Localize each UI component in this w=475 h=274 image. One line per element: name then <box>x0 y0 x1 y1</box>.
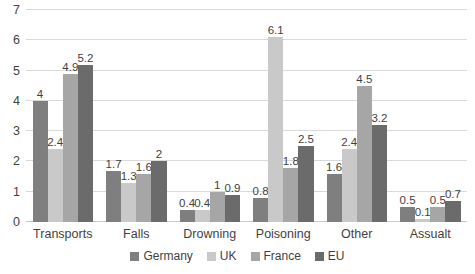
bar-value-label: 0.4 <box>194 197 210 209</box>
bar <box>253 198 268 222</box>
bar <box>342 149 357 222</box>
bar-slot: 0.5 <box>400 10 415 222</box>
bar-value-label: 6.1 <box>268 24 284 36</box>
bar-value-label: 1.6 <box>136 161 152 173</box>
bar-value-label: 0.7 <box>445 188 461 200</box>
bar <box>327 174 342 222</box>
bar <box>33 101 48 222</box>
bar <box>400 207 415 222</box>
bar-value-label: 5.2 <box>77 52 93 64</box>
category-label: Other <box>341 226 372 242</box>
bar-group: 0.40.410.9 <box>173 10 247 222</box>
bar-value-label: 1 <box>214 179 220 191</box>
legend-label: UK <box>220 250 237 263</box>
bar <box>180 210 195 222</box>
bar-slot: 4.9 <box>63 10 78 222</box>
bar-group: 1.71.31.62 <box>100 10 174 222</box>
bar-slot: 1.7 <box>106 10 121 222</box>
bar-value-label: 1.3 <box>121 170 137 182</box>
y-tick-label: 0 <box>13 216 20 228</box>
bar-slot: 2.4 <box>342 10 357 222</box>
legend-swatch-icon <box>207 252 216 261</box>
bar <box>372 125 387 222</box>
bar-slot: 0.4 <box>195 10 210 222</box>
bar-value-label: 0.8 <box>253 185 269 197</box>
legend-item[interactable]: UK <box>207 250 237 263</box>
bar <box>136 174 151 222</box>
y-axis: 01234567 <box>0 0 26 274</box>
bar-slot: 1.6 <box>327 10 342 222</box>
chart-legend: GermanyUKFranceEU <box>0 250 475 263</box>
bar <box>78 65 93 222</box>
y-tick-label: 1 <box>13 186 20 198</box>
bar-slot: 2 <box>151 10 166 222</box>
y-tick-label: 2 <box>13 155 20 167</box>
category-label: Transports <box>33 226 92 242</box>
bar-value-label: 0.5 <box>430 194 446 206</box>
bar-slot: 3.2 <box>372 10 387 222</box>
bar-slot: 1.3 <box>121 10 136 222</box>
bar-value-label: 0.5 <box>400 194 416 206</box>
bar-value-label: 2.4 <box>341 136 357 148</box>
bar-slot: 1.8 <box>283 10 298 222</box>
bar-slot: 0.5 <box>430 10 445 222</box>
bar-slot: 0.8 <box>253 10 268 222</box>
grouped-bar-chart: 01234567 42.44.95.21.71.31.620.40.410.90… <box>0 0 475 274</box>
bar-slot: 0.1 <box>415 10 430 222</box>
bar-value-label: 0.4 <box>179 197 195 209</box>
category-label: Poisoning <box>256 226 311 242</box>
bar <box>445 201 460 222</box>
bar-group: 0.50.10.50.7 <box>394 10 468 222</box>
category-label: Falls <box>123 226 149 242</box>
bar-value-label: 1.7 <box>106 158 122 170</box>
bar-slot: 5.2 <box>78 10 93 222</box>
bar <box>225 195 240 222</box>
bar <box>48 149 63 222</box>
bar <box>151 161 166 222</box>
bar-slot: 4.5 <box>357 10 372 222</box>
y-tick-label: 6 <box>13 34 20 46</box>
bar <box>357 86 372 222</box>
bar <box>121 183 136 222</box>
bar <box>210 192 225 222</box>
legend-item[interactable]: Germany <box>130 250 192 263</box>
bar <box>430 207 445 222</box>
plot-area: 42.44.95.21.71.31.620.40.410.90.86.11.82… <box>26 10 467 222</box>
legend-item[interactable]: France <box>251 250 301 263</box>
bar-slot: 1 <box>210 10 225 222</box>
bar-value-label: 1.8 <box>283 155 299 167</box>
x-axis-category-labels: TransportsFallsDrowningPoisoningOtherAss… <box>26 226 467 246</box>
bar-group: 42.44.95.2 <box>26 10 100 222</box>
bar-group: 1.62.44.53.2 <box>320 10 394 222</box>
bar <box>63 74 78 222</box>
bar <box>195 210 210 222</box>
y-tick-label: 3 <box>13 125 20 137</box>
bar <box>415 219 430 222</box>
legend-item[interactable]: EU <box>315 250 345 263</box>
legend-label: France <box>264 250 301 263</box>
bar-slot: 4 <box>33 10 48 222</box>
y-tick-label: 4 <box>13 95 20 107</box>
bar <box>298 146 313 222</box>
legend-label: Germany <box>143 250 192 263</box>
category-label: Drowning <box>183 226 236 242</box>
bar-value-label: 2.5 <box>298 133 314 145</box>
bar-value-label: 2.4 <box>47 136 63 148</box>
category-label: Assualt <box>410 226 451 242</box>
bar-value-label: 1.6 <box>326 161 342 173</box>
bar-group: 0.86.11.82.5 <box>247 10 321 222</box>
bar <box>106 171 121 222</box>
legend-label: EU <box>328 250 345 263</box>
bar-value-label: 3.2 <box>371 112 387 124</box>
bar-slot: 0.7 <box>445 10 460 222</box>
bar-slot: 2.4 <box>48 10 63 222</box>
bar-value-label: 0.9 <box>224 182 240 194</box>
bar-slot: 6.1 <box>268 10 283 222</box>
legend-swatch-icon <box>130 252 139 261</box>
bar-value-label: 4 <box>37 88 43 100</box>
bar-slot: 2.5 <box>298 10 313 222</box>
bar-slot: 0.4 <box>180 10 195 222</box>
bar <box>283 168 298 223</box>
legend-swatch-icon <box>315 252 324 261</box>
legend-swatch-icon <box>251 252 260 261</box>
